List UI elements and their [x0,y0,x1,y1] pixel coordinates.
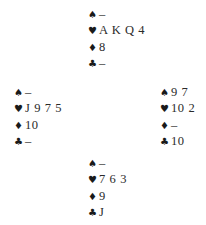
north-hearts-row: ♥A K Q 4 [88,22,145,38]
north-spades-cards: – [98,6,106,22]
west-hearts-cards: J 9 7 5 [24,100,62,116]
east-hearts-row: ♥10 2 [160,100,195,116]
north-clubs-cards: – [98,55,106,71]
heart-icon: ♥ [160,101,170,117]
east-clubs-cards: 10 [170,133,185,149]
north-diamonds-row: ♦8 [88,39,145,55]
south-diamonds-cards: 9 [98,188,106,204]
heart-icon: ♥ [14,101,24,117]
spade-icon: ♠ [88,7,98,23]
west-spades-row: ♠– [14,84,62,100]
east-clubs-row: ♣10 [160,133,195,149]
south-hand: ♠– ♥7 6 3 ♦9 ♣J [88,155,127,220]
west-hand: ♠– ♥J 9 7 5 ♦10 ♣– [14,84,62,149]
south-spades-row: ♠– [88,155,127,171]
east-diamonds-cards: – [170,117,178,133]
north-diamonds-cards: 8 [98,39,106,55]
diamond-icon: ♦ [88,40,98,56]
north-hand: ♠– ♥A K Q 4 ♦8 ♣– [88,6,145,71]
diamond-icon: ♦ [88,189,98,205]
south-hearts-cards: 7 6 3 [98,171,127,187]
south-spades-cards: – [98,155,106,171]
diamond-icon: ♦ [160,118,170,134]
club-icon: ♣ [160,134,170,150]
west-diamonds-cards: 10 [24,117,39,133]
north-clubs-row: ♣– [88,55,145,71]
heart-icon: ♥ [88,172,98,188]
east-spades-row: ♠9 7 [160,84,195,100]
east-hand: ♠9 7 ♥10 2 ♦– ♣10 [160,84,195,149]
club-icon: ♣ [88,205,98,221]
diamond-icon: ♦ [14,118,24,134]
club-icon: ♣ [14,134,24,150]
west-diamonds-row: ♦10 [14,117,62,133]
south-hearts-row: ♥7 6 3 [88,171,127,187]
east-spades-cards: 9 7 [170,84,188,100]
spade-icon: ♠ [14,85,24,101]
spade-icon: ♠ [160,85,170,101]
west-spades-cards: – [24,84,32,100]
west-hearts-row: ♥J 9 7 5 [14,100,62,116]
heart-icon: ♥ [88,23,98,39]
west-clubs-row: ♣– [14,133,62,149]
east-hearts-cards: 10 2 [170,100,195,116]
club-icon: ♣ [88,56,98,72]
east-diamonds-row: ♦– [160,117,195,133]
spade-icon: ♠ [88,156,98,172]
west-clubs-cards: – [24,133,32,149]
south-clubs-cards: J [98,204,104,220]
south-clubs-row: ♣J [88,204,127,220]
north-spades-row: ♠– [88,6,145,22]
north-hearts-cards: A K Q 4 [98,22,145,38]
south-diamonds-row: ♦9 [88,188,127,204]
